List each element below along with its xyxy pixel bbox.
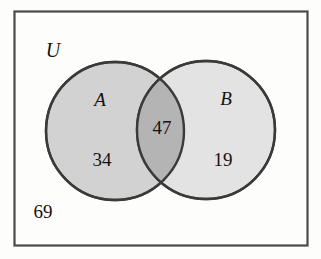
set-a-only-count: 34: [93, 149, 113, 170]
set-b-only-count: 19: [214, 149, 233, 170]
set-b-label: B: [220, 88, 232, 109]
venn-diagram-figure: U A B 34 47 19 69: [0, 0, 321, 259]
universe-outside-count: 69: [34, 201, 53, 222]
universe-label: U: [46, 39, 62, 61]
venn-diagram-canvas: U A B 34 47 19 69: [0, 0, 321, 259]
intersection-count: 47: [153, 117, 172, 138]
set-a-label: A: [92, 89, 106, 110]
